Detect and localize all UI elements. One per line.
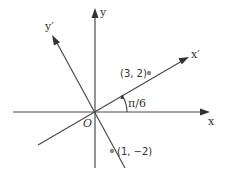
x-prime-axis-arrowhead: [178, 57, 189, 64]
point-1-neg2-label: (1, −2): [117, 146, 152, 157]
y-prime-axis: [57, 43, 125, 168]
y-prime-axis-label: y′: [44, 20, 54, 33]
y-prime-axis-arrowhead: [52, 35, 60, 46]
rotation-angle-label: π/6: [128, 97, 146, 110]
y-axis-arrowhead: [92, 8, 99, 18]
x-prime-axis: [38, 61, 182, 145]
point-1-neg2: [110, 149, 114, 153]
y-axis-label: y: [99, 6, 107, 19]
x-axis-label: x: [208, 115, 215, 128]
x-prime-axis-label: x′: [191, 48, 200, 61]
point-3-2-label: (3, 2): [120, 68, 147, 79]
rotated-axes-diagram: x y x′ y′ O π/6 (3, 2) (1, −2): [0, 0, 226, 179]
point-3-2: [147, 71, 151, 75]
origin-label: O: [83, 117, 92, 130]
